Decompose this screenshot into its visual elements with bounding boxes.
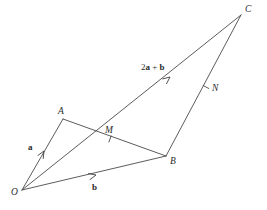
vector-diagram: O A B C M N a b 2a + b [0, 0, 267, 210]
segment-AB [63, 119, 166, 156]
vector-label-2a-plus-b: 2a + b [141, 62, 165, 72]
point-label-group: O A B C M N [11, 4, 252, 197]
vector-label-b: b [92, 182, 97, 192]
expr-plus-sign: + [150, 62, 160, 72]
point-label-O: O [11, 187, 18, 197]
vector-label-a: a [28, 142, 33, 152]
tick-mark-group [109, 86, 209, 143]
segment-OA [22, 119, 63, 190]
point-label-M: M [104, 125, 114, 135]
arrowhead-vector-2a-plus-b [163, 77, 170, 84]
arrowhead-vector-b [89, 174, 96, 180]
expr-term-b: b [160, 62, 165, 72]
point-label-N: N [211, 83, 219, 93]
tick-mark-N [203, 86, 209, 89]
point-label-C: C [245, 4, 252, 14]
point-label-B: B [170, 156, 176, 166]
tick-mark-M [109, 136, 111, 142]
point-label-A: A [57, 106, 64, 116]
segment-group [22, 15, 241, 190]
figure-canvas: O A B C M N a b 2a + b [0, 0, 267, 210]
